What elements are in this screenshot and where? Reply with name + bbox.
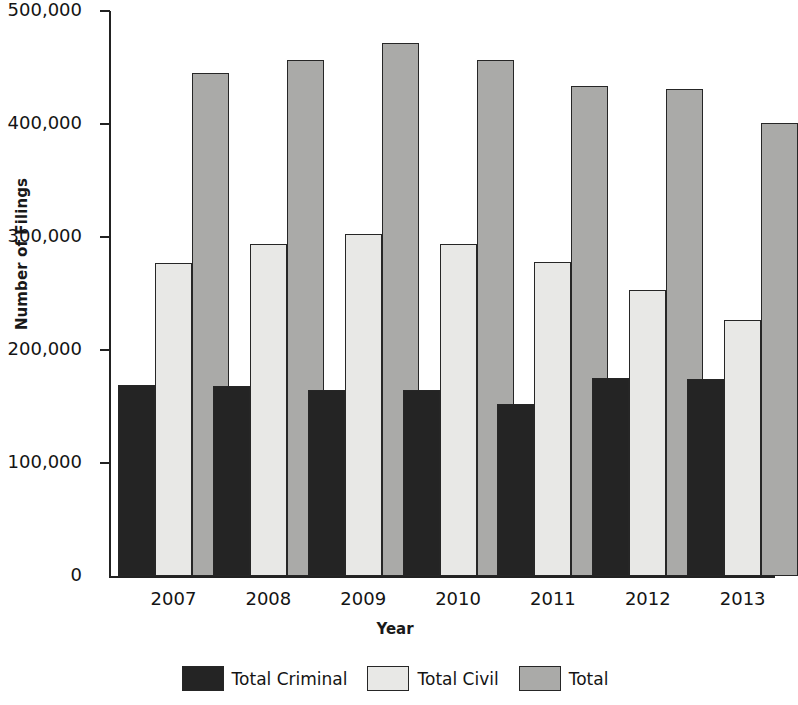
plot-area (111, 11, 775, 576)
x-axis-line (109, 576, 775, 578)
x-tick-label: 2013 (720, 588, 766, 609)
x-tick-label: 2011 (530, 588, 576, 609)
legend-item: Total Civil (367, 666, 498, 691)
y-tick-label-text: 500,000 (8, 0, 82, 20)
bar (629, 290, 666, 576)
y-tick-label-text: 200,000 (8, 338, 82, 359)
bar (724, 320, 761, 577)
x-tick-label: 2008 (245, 588, 291, 609)
legend-swatch (519, 666, 561, 691)
bar (761, 123, 798, 576)
y-tick-label-text: 300,000 (8, 225, 82, 246)
bar (155, 263, 192, 576)
bar (440, 244, 477, 576)
x-tick-label: 2009 (340, 588, 386, 609)
bar (497, 404, 534, 576)
bar (345, 234, 382, 576)
legend-label: Total (569, 669, 609, 689)
legend-label: Total Criminal (232, 669, 348, 689)
y-axis-title: Number of Filings (13, 154, 31, 354)
chart-legend: Total CriminalTotal CivilTotal (0, 666, 790, 691)
legend-item: Total Criminal (182, 666, 348, 691)
legend-item: Total (519, 666, 609, 691)
y-tick-label-text: 0 (71, 564, 82, 585)
bar-group (687, 11, 798, 576)
x-axis-title: Year (0, 620, 790, 638)
y-tick-label-text: 100,000 (8, 451, 82, 472)
bar (687, 379, 724, 576)
bar (592, 378, 629, 576)
bar (403, 390, 440, 576)
x-tick-label: 2010 (435, 588, 481, 609)
bar (250, 244, 287, 576)
x-tick-label: 2012 (625, 588, 671, 609)
legend-label: Total Civil (417, 669, 498, 689)
bar (213, 386, 250, 576)
bar (308, 390, 345, 576)
bar (118, 385, 155, 576)
x-tick-label: 2007 (151, 588, 197, 609)
bar (534, 262, 571, 576)
legend-swatch (367, 666, 409, 691)
y-tick-label-text: 400,000 (8, 112, 82, 133)
legend-swatch (182, 666, 224, 691)
